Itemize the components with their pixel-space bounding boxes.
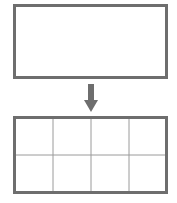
down-arrow-icon: [84, 84, 98, 112]
bottom-grid: [15, 118, 167, 193]
top-box: [15, 6, 167, 78]
diagram-canvas: [0, 0, 177, 203]
